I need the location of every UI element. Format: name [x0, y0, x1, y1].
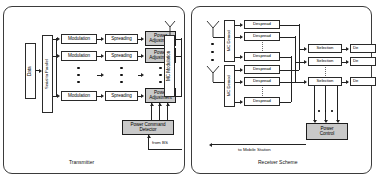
despread-block-2-2: Despread [244, 77, 280, 86]
antenna-ellipsis [211, 43, 214, 61]
modulation-ellipsis [77, 67, 80, 83]
decision-block-1: De [350, 44, 376, 53]
despread-ellipsis-1 [262, 42, 263, 51]
to-mobile-station-label: to Mobile Station [238, 147, 271, 152]
transmitter-panel: Data Serial to Parallel Modulation Sprea… [3, 6, 185, 174]
receiver-panel: MC Demod Despread Despread Despread MC D… [191, 6, 372, 174]
power-control-input-ellipsis [318, 110, 333, 112]
selection-ellipsis [325, 67, 326, 76]
modulation-block-3: Modulation [61, 91, 97, 101]
despread-block-2-3: Despread [244, 97, 280, 106]
despread-block-2-1: Despread [244, 65, 280, 74]
modulation-block-1: Modulation [61, 34, 97, 44]
spreading-block-1: Spreading [105, 34, 138, 44]
spreading-block-2: Spreading [105, 51, 138, 61]
power-command-detector-block: Power Command Detector [122, 120, 174, 135]
mc-demod-block-2: MC Demod [224, 65, 235, 107]
decision-block-2: De [350, 57, 376, 66]
power-adjustment-ellipsis [159, 67, 162, 83]
from-bs-label: from BS [152, 140, 168, 145]
selection-block-2: Selection [308, 57, 342, 66]
serial-to-parallel-block: Serial to Parallel [42, 35, 53, 113]
power-command-detector-line-2: Detector [140, 128, 157, 133]
despread-block-1-2: Despread [244, 32, 280, 41]
receiver-caption: Receiver Scheme [258, 159, 297, 165]
despread-ellipsis-2 [262, 87, 263, 96]
power-control-line-2: Control [320, 132, 334, 137]
decision-block-3: De [350, 77, 376, 86]
spreading-ellipsis [120, 67, 123, 83]
selection-block-1: Selection [308, 44, 342, 53]
modulation-block-2: Modulation [61, 51, 97, 61]
spreading-block-3: Spreading [105, 91, 138, 101]
selection-block-3: Selection [308, 77, 342, 86]
data-block: Data [25, 43, 36, 99]
mc-modulation-block: MC Modulation [164, 35, 175, 97]
receive-antenna-2 [206, 65, 220, 82]
despread-block-1-1: Despread [244, 20, 280, 29]
transmit-antenna [164, 20, 176, 35]
mc-demod-block-1: MC Demod [224, 20, 235, 62]
receive-antenna-1 [206, 20, 220, 37]
power-control-block: Power Control [306, 123, 348, 140]
despread-block-1-3: Despread [244, 52, 280, 61]
transmitter-caption: Transmitter [69, 159, 94, 165]
